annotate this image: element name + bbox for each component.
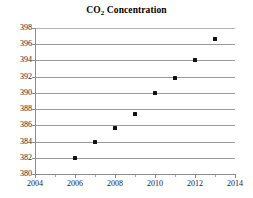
y-tick-label-388: 388 [6,105,32,113]
data-point [113,126,117,130]
x-tick-label-2010: 2010 [135,180,175,188]
plot-area [35,28,235,174]
gridline-384 [35,142,235,143]
x-tick-mark-2014 [235,175,236,178]
chart-title-subscript: 2 [101,9,105,17]
y-tick-mark-398 [32,28,35,29]
x-tick-mark-2011 [175,175,176,177]
y-tick-mark-392 [32,77,35,78]
data-point [193,58,197,62]
x-tick-mark-2007 [95,175,96,177]
gridline-388 [35,109,235,110]
y-tick-label-396: 396 [6,40,32,48]
y-tick-mark-384 [32,142,35,143]
gridline-392 [35,77,235,78]
gridline-398 [35,28,235,29]
y-tick-label-384: 384 [6,138,32,146]
y-tick-mark-386 [32,125,35,126]
y-tick-label-390: 390 [6,89,32,97]
data-point [173,76,177,80]
x-tick-mark-2005 [55,175,56,177]
x-tick-mark-2009 [135,175,136,177]
x-tick-label-2008: 2008 [95,180,135,188]
data-point [73,156,77,160]
co2-concentration-chart: CO2 Concentration 3803823843863883903923… [0,0,253,198]
x-tick-label-2014: 2014 [215,180,253,188]
gridline-382 [35,158,235,159]
y-tick-label-386: 386 [6,121,32,129]
y-tick-label-382: 382 [6,154,32,162]
y-tick-label-398: 398 [6,24,32,32]
data-point [133,112,137,116]
y-tick-mark-394 [32,60,35,61]
chart-title-rest: Concentration [104,5,166,15]
x-tick-mark-2006 [75,175,76,178]
y-tick-mark-388 [32,109,35,110]
x-tick-label-2012: 2012 [175,180,215,188]
data-point [153,91,157,95]
x-tick-label-2004: 2004 [15,180,55,188]
x-tick-label-2006: 2006 [55,180,95,188]
x-tick-mark-2010 [155,175,156,178]
data-point [213,37,217,41]
x-tick-mark-2008 [115,175,116,178]
y-tick-mark-396 [32,44,35,45]
chart-title-main: CO [86,5,100,15]
y-tick-label-394: 394 [6,56,32,64]
x-tick-mark-2012 [195,175,196,178]
chart-title: CO2 Concentration [0,5,253,15]
y-tick-mark-382 [32,158,35,159]
gridline-396 [35,44,235,45]
gridline-390 [35,93,235,94]
gridline-386 [35,125,235,126]
y-tick-label-392: 392 [6,73,32,81]
y-tick-label-380: 380 [6,170,32,178]
x-tick-mark-2004 [35,175,36,178]
data-point [93,140,97,144]
x-tick-mark-2013 [215,175,216,177]
y-axis-line [35,28,36,175]
gridline-394 [35,60,235,61]
y-tick-mark-390 [32,93,35,94]
